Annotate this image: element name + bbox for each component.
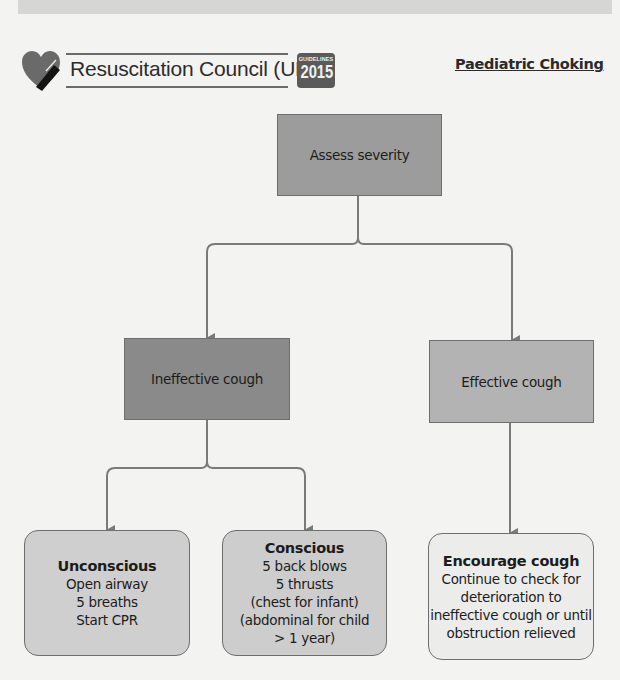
node-assess-severity: Assess severity — [277, 114, 442, 196]
node-encourage-line: Continue to check for — [442, 570, 581, 588]
node-conscious-line: 5 back blows — [262, 557, 346, 575]
connector-assess-stem — [352, 196, 358, 244]
node-unconscious: Unconscious Open airway 5 breaths Start … — [24, 530, 190, 656]
node-unconscious-line: Start CPR — [76, 611, 138, 629]
node-assess-label: Assess severity — [310, 147, 410, 163]
node-conscious-line: 5 thrusts — [276, 575, 334, 593]
node-encourage-line: deterioration to — [461, 588, 562, 606]
node-conscious-line: (abdominal for child — [240, 611, 370, 629]
connector-ineffective-stem — [201, 420, 207, 468]
node-conscious-heading: Conscious — [265, 539, 344, 557]
node-unconscious-heading: Unconscious — [58, 557, 157, 575]
node-ineffective-label: Ineffective cough — [151, 371, 263, 387]
connector-ineffective-to-unconscious — [107, 468, 201, 530]
connector-assess-to-ineffective — [207, 244, 352, 338]
node-conscious-line: (chest for infant) — [250, 593, 358, 611]
connector-ineffective-to-conscious — [207, 462, 305, 530]
node-encourage-heading: Encourage cough — [443, 552, 579, 570]
node-conscious-line: > 1 year) — [274, 629, 335, 647]
node-encourage-line: obstruction relieved — [446, 624, 575, 642]
node-unconscious-line: 5 breaths — [76, 593, 137, 611]
connector-assess-to-effective — [358, 238, 512, 340]
node-effective-cough: Effective cough — [429, 340, 594, 423]
node-effective-label: Effective cough — [461, 374, 561, 390]
node-ineffective-cough: Ineffective cough — [124, 338, 290, 420]
node-encourage-cough: Encourage cough Continue to check for de… — [428, 533, 594, 660]
node-conscious: Conscious 5 back blows 5 thrusts (chest … — [222, 530, 387, 656]
node-encourage-line: ineffective cough or until — [430, 606, 591, 624]
node-unconscious-line: Open airway — [66, 575, 148, 593]
